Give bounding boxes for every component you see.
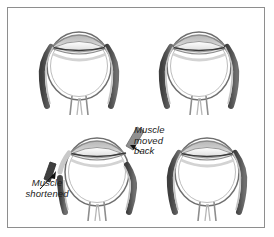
- eye-diagram-bottom-right: [148, 120, 266, 224]
- label-shortened-line1: Muscle: [16, 178, 78, 189]
- eye-svg-top-right: [140, 14, 258, 118]
- label-muscle-shortened: Muscle shortened: [16, 178, 78, 199]
- figure-border: Muscle moved back Muscle shortened: [7, 7, 265, 228]
- label-moved-back-line1: Muscle: [134, 125, 165, 136]
- eye-svg-top-left: [20, 14, 138, 118]
- eye-diagram-top-right: [140, 14, 258, 118]
- label-moved-back-line3: back: [134, 146, 165, 157]
- illustration-figure: Muscle moved back Muscle shortened: [0, 0, 274, 237]
- eye-diagram-top-left: [20, 14, 138, 118]
- eye-svg-bottom-right: [148, 120, 266, 224]
- label-shortened-line2: shortened: [16, 189, 78, 200]
- label-muscle-moved-back: Muscle moved back: [134, 125, 165, 157]
